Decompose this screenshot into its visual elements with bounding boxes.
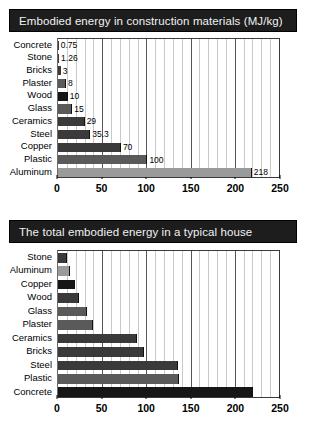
gridline-minor: [217, 251, 218, 397]
bar-wood: [58, 92, 68, 101]
x-tick-label: 200: [227, 182, 245, 194]
gridline-minor: [208, 251, 209, 397]
chart-title-banner-bottom: The total embodied energy in a typical h…: [9, 220, 297, 243]
bar-glass: [58, 307, 87, 317]
bar-row: 0.75: [58, 39, 279, 52]
bar-glass: [58, 104, 72, 113]
gridline-minor: [244, 251, 245, 397]
chart-panel-construction-materials: Embodied energy in construction material…: [0, 0, 313, 215]
category-label: Glass: [0, 304, 55, 317]
bar-ceramics: [58, 117, 85, 126]
bar-row: 218: [58, 166, 279, 178]
gridline-minor: [199, 251, 200, 397]
category-label: Bricks: [0, 344, 55, 357]
bar-value-label: 0.75: [59, 41, 78, 50]
x-tick-mark: [280, 175, 281, 179]
bar-chart-construction-materials: ConcreteStoneBricksPlasterWoodGlassCeram…: [0, 38, 313, 210]
chart-title-top: Embodied energy in construction material…: [10, 15, 283, 27]
bar-row: [58, 264, 279, 277]
category-label: Plaster: [0, 317, 55, 330]
category-axis-top: ConcreteStoneBricksPlasterWoodGlassCeram…: [0, 38, 55, 178]
gridline-minor: [252, 39, 253, 177]
gridline-minor: [261, 39, 262, 177]
bar-row: [58, 359, 279, 372]
x-tick-label: 150: [182, 402, 200, 414]
x-tick-label: 100: [137, 182, 155, 194]
x-tick-label: 0: [54, 402, 60, 414]
category-label: Plastic: [0, 152, 55, 165]
x-axis-top: 050100150200250: [57, 179, 280, 197]
x-tick-label: 50: [96, 182, 108, 194]
bar-plaster: [58, 320, 93, 330]
gridline-minor: [182, 39, 183, 177]
bar-row: [58, 278, 279, 291]
category-label: Bricks: [0, 63, 55, 76]
gridline-major: [191, 39, 192, 177]
bar-stone: [58, 253, 67, 263]
x-tick-label: 50: [96, 402, 108, 414]
gridline-minor: [164, 39, 165, 177]
bar-value-label: 3: [61, 67, 68, 76]
category-label: Copper: [0, 140, 55, 153]
bar-value-label: 8: [66, 79, 73, 88]
category-label: Ceramics: [0, 331, 55, 344]
bar-steel: [58, 130, 90, 139]
category-label: Concrete: [0, 38, 55, 51]
bar-row: [58, 251, 279, 264]
bar-row: 8: [58, 77, 279, 90]
bar-row: [58, 318, 279, 331]
gridline-minor: [252, 251, 253, 397]
category-label: Ceramics: [0, 114, 55, 127]
x-tick-mark: [280, 395, 281, 399]
bar-bricks: [58, 347, 144, 357]
category-label: Wood: [0, 290, 55, 303]
gridline-major: [235, 39, 236, 177]
bar-row: [58, 305, 279, 318]
gridline-minor: [217, 39, 218, 177]
x-axis-bottom: 050100150200250: [57, 399, 280, 417]
category-label: Aluminum: [0, 165, 55, 178]
x-tick-label: 100: [137, 402, 155, 414]
bar-row: 70: [58, 141, 279, 154]
bar-row: 29: [58, 115, 279, 128]
bar-copper: [58, 143, 121, 152]
gridline-minor: [208, 39, 209, 177]
category-label: Copper: [0, 277, 55, 290]
category-label: Stone: [0, 250, 55, 263]
bar-copper: [58, 280, 75, 290]
category-label: Steel: [0, 127, 55, 140]
category-label: Plastic: [0, 371, 55, 384]
bar-concrete: [58, 387, 253, 397]
gridline-minor: [173, 39, 174, 177]
category-axis-bottom: StoneAluminumCopperWoodGlassPlasterCeram…: [0, 250, 55, 398]
bar-plastic: [58, 374, 179, 384]
category-label: Glass: [0, 102, 55, 115]
category-label: Plaster: [0, 76, 55, 89]
bar-plaster: [58, 79, 66, 88]
category-label: Wood: [0, 89, 55, 102]
bar-row: 10: [58, 90, 279, 103]
bar-row: [58, 332, 279, 345]
bar-value-label: 35.3: [90, 130, 109, 139]
x-tick-label: 250: [271, 402, 289, 414]
bar-chart-typical-house: StoneAluminumCopperWoodGlassPlasterCeram…: [0, 250, 313, 432]
x-tick-label: 0: [54, 182, 60, 194]
bar-value-label: 10: [68, 92, 79, 101]
bar-value-label: 70: [121, 143, 132, 152]
bar-wood: [58, 293, 79, 303]
bar-row: 3: [58, 64, 279, 77]
category-label: Concrete: [0, 385, 55, 398]
bar-aluminum: [58, 266, 70, 276]
gridline-minor: [199, 39, 200, 177]
bar-value-label: 218: [252, 168, 268, 177]
chart-panel-typical-house: The total embodied energy in a typical h…: [0, 215, 313, 435]
bar-value-label: 15: [72, 105, 83, 114]
bar-steel: [58, 361, 178, 371]
category-label: Steel: [0, 358, 55, 371]
gridline-major: [235, 251, 236, 397]
gridline-minor: [226, 39, 227, 177]
gridline-major: [191, 251, 192, 397]
gridline-minor: [182, 251, 183, 397]
bar-row: [58, 386, 279, 398]
chart-page: Embodied energy in construction material…: [0, 0, 313, 435]
